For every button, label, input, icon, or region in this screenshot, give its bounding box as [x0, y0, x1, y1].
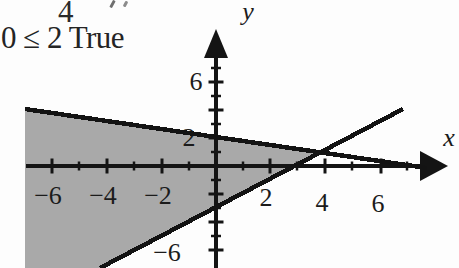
y-axis-label: y — [239, 0, 254, 26]
x-tick-label: 2 — [260, 183, 273, 212]
x-tick-label: −2 — [144, 181, 172, 210]
y-tick-label: 2 — [183, 123, 196, 152]
y-tick-label: −6 — [153, 238, 181, 267]
x-tick-label: 4 — [316, 188, 329, 217]
x-tick-label: −6 — [34, 181, 62, 210]
textbook-figure: 4 0 ≤ 2 True −6 −4 −2 2 4 6 6 2 −6 x y — [0, 0, 459, 268]
y-axis-arrowhead — [204, 29, 228, 58]
y-tick-label: 6 — [190, 67, 203, 96]
x-tick-label: 6 — [372, 189, 385, 218]
x-tick-label: −4 — [89, 181, 117, 210]
inequality-graph: −6 −4 −2 2 4 6 6 2 −6 x y — [0, 0, 459, 268]
x-axis-label: x — [442, 123, 455, 152]
